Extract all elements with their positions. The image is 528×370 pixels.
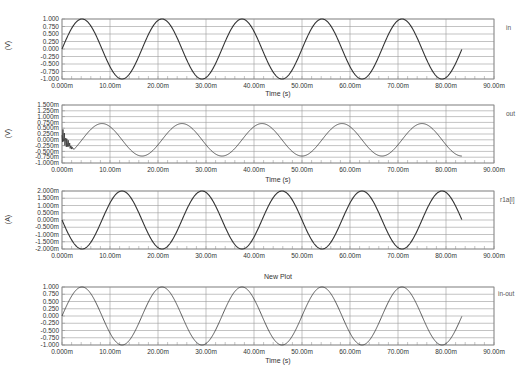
y-tick-label: 0.000 [43,312,60,319]
x-tick-label: 40.00m [243,348,265,355]
trace-label-in-out[interactable]: in-out [498,290,514,297]
y-tick-label: -0.500 [41,327,60,334]
x-tick-label: 10.00m [99,348,121,355]
x-axis-title: Time (s) [248,357,308,364]
x-tick-label: 90.00m [483,348,505,355]
chart-in-minus-out: 1.0000.7500.5000.2500.000-0.250-0.500-0.… [0,0,528,370]
y-tick-label: 0.750 [43,290,60,297]
x-tick-label: 0.000m [51,348,73,355]
y-tick-label: -0.750 [41,334,60,341]
x-tick-label: 80.00m [435,348,457,355]
x-tick-label: 50.00m [291,348,313,355]
x-tick-label: 20.00m [147,348,169,355]
y-tick-label: 0.250 [43,305,60,312]
plot-panel-in-minus-out: 1.0000.7500.5000.2500.000-0.250-0.500-0.… [0,0,528,370]
y-tick-label: 0.500 [43,298,60,305]
x-tick-label: 60.00m [339,348,361,355]
y-tick-label: 1.000 [43,283,60,290]
y-tick-label: -0.250 [41,319,60,326]
x-tick-label: 70.00m [387,348,409,355]
x-tick-label: 30.00m [195,348,217,355]
